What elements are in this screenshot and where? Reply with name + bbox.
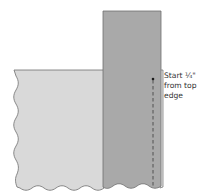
start-annotation-label: Start ¼" from top edge	[164, 71, 197, 101]
top-fabric-strip	[103, 11, 161, 188]
stitch-start-dot	[152, 78, 155, 81]
annotation-line-1: Start ¼"	[164, 71, 197, 81]
annotation-line-2: from top	[164, 81, 197, 91]
annotation-line-3: edge	[164, 91, 197, 101]
bottom-fabric-panel	[14, 70, 104, 190]
